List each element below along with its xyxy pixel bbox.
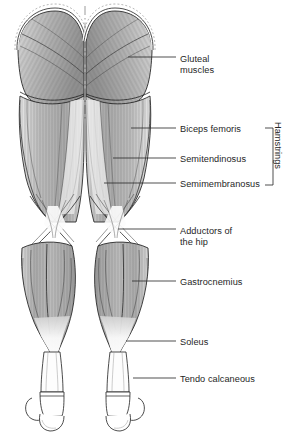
label-semimembranosus: Semimembranosus — [180, 179, 260, 190]
hamstrings-group-label: Hamstrings — [273, 122, 283, 169]
label-semitendinosus-line1: Semitendinosus — [180, 154, 246, 165]
label-gastrocnemius: Gastrocnemius — [180, 277, 242, 288]
label-gastrocnemius-line1: Gastrocnemius — [180, 277, 242, 288]
label-tendo-calcaneous-line1: Tendo calcaneous — [180, 374, 255, 385]
label-biceps-femoris: Biceps femoris — [180, 124, 241, 135]
label-tendo-calcaneous: Tendo calcaneous — [180, 374, 255, 385]
label-semimembranosus-line1: Semimembranosus — [180, 179, 260, 190]
label-adductors: Adductors ofthe hip — [180, 226, 232, 248]
label-soleus-line1: Soleus — [180, 337, 208, 348]
label-gluteal: Glutealmuscles — [180, 54, 214, 76]
label-gluteal-line1: Gluteal — [180, 54, 214, 65]
leg-anatomy-diagram — [0, 0, 303, 438]
label-gluteal-line2: muscles — [180, 65, 214, 76]
label-soleus: Soleus — [180, 337, 208, 348]
label-semitendinosus: Semitendinosus — [180, 154, 246, 165]
label-adductors-line2: the hip — [180, 237, 232, 248]
label-biceps-femoris-line1: Biceps femoris — [180, 124, 241, 135]
label-adductors-line1: Adductors of — [180, 226, 232, 237]
